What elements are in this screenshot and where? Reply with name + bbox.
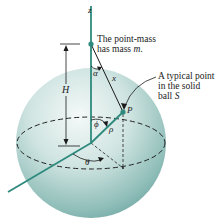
phi-label: ϕ bbox=[94, 119, 99, 129]
alpha-label: α bbox=[93, 68, 98, 78]
point-mass-caption-line1: The point-mass bbox=[97, 34, 156, 44]
z-axis-label: z bbox=[87, 5, 92, 15]
h-label: H bbox=[61, 84, 70, 95]
spherical-gravity-diagram: z The point-mass has mass m. A typical p… bbox=[0, 0, 221, 223]
theta-label: θ bbox=[85, 157, 90, 167]
typical-point-caption-line2: in the solid bbox=[158, 81, 200, 91]
point-mass-dot bbox=[88, 41, 93, 46]
projection-point bbox=[122, 167, 124, 169]
point-p-dot bbox=[120, 109, 125, 114]
h-arrow-up bbox=[64, 45, 69, 51]
typical-point-caption-line1: A typical point bbox=[158, 71, 215, 81]
typical-point-caption-line3: ball S bbox=[158, 91, 180, 101]
p-label: P bbox=[126, 105, 133, 115]
x-label: x bbox=[111, 73, 116, 83]
point-mass-caption-line2: has mass m. bbox=[97, 44, 143, 54]
rho-label: ρ bbox=[108, 124, 114, 134]
